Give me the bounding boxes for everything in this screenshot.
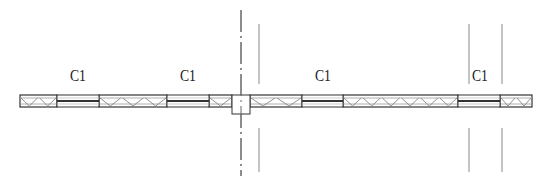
window-label-c1-3: C1 — [315, 68, 331, 84]
window-label-c1-1: C1 — [70, 68, 86, 84]
wall-segment — [500, 95, 532, 107]
wall-plan-drawing — [0, 0, 548, 189]
wall-segment — [20, 95, 57, 107]
window-label-c1-2: C1 — [180, 68, 196, 84]
window-label-c1-4: C1 — [472, 68, 488, 84]
wall-segment — [209, 95, 232, 107]
wall-segment — [250, 95, 302, 107]
wall-segment — [343, 95, 458, 107]
cad-drawing-canvas: C1 C1 C1 C1 — [0, 0, 548, 189]
